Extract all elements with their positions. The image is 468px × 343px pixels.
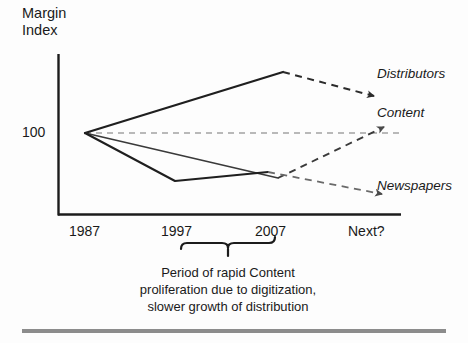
x-tick-1997: 1997: [161, 224, 192, 240]
series-distributors: [85, 72, 374, 133]
period-brace: [181, 237, 275, 256]
x-tick-1987: 1987: [69, 224, 100, 240]
series-label-content: Content: [377, 105, 424, 120]
x-tick-2007: 2007: [255, 224, 286, 240]
bottom-divider-bar: [22, 329, 446, 333]
annotation-caption-line1: Period of rapid Content: [78, 265, 378, 281]
axis-lines: [58, 54, 401, 216]
y-axis-title-line1: Margin: [22, 5, 66, 21]
y-axis-title-line2: Index: [22, 22, 57, 38]
y-tick-100: 100: [22, 125, 45, 141]
series-newspapers: [85, 133, 382, 194]
x-tick-next: Next?: [348, 224, 385, 240]
series-content: [85, 127, 384, 178]
annotation-caption-line3: slower growth of distribution: [78, 299, 378, 315]
series-label-newspapers: Newspapers: [377, 178, 452, 193]
annotation-caption-line2: proliferation due to digitization,: [78, 282, 378, 298]
series-label-distributors: Distributors: [377, 66, 445, 81]
chart-canvas: Margin Index 100 1987 1997 2007 Next? Di…: [0, 0, 468, 343]
